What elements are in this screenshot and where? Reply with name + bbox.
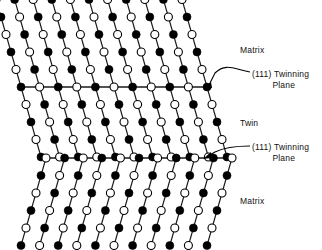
atom-open <box>147 242 155 250</box>
atom-open <box>73 242 81 250</box>
atom-filled <box>193 48 201 56</box>
atom-open <box>154 154 162 162</box>
atom-filled <box>213 118 221 126</box>
label-matrix-top: Matrix <box>240 45 264 56</box>
atom-open <box>151 31 159 39</box>
atom-filled <box>78 224 86 232</box>
atom-filled <box>37 172 45 180</box>
atom-filled <box>162 189 170 197</box>
atom-open <box>191 154 199 162</box>
atom-filled <box>91 83 99 91</box>
atom-open <box>228 154 236 162</box>
atom-filled <box>61 154 69 162</box>
atom-open <box>32 136 40 144</box>
atom-open <box>93 172 101 180</box>
atom-filled <box>176 207 184 215</box>
atom-filled <box>122 0 130 4</box>
atom-filled <box>109 13 117 21</box>
atom-open <box>144 136 152 144</box>
atom-filled <box>139 118 147 126</box>
atom-open <box>171 224 179 232</box>
atom-open <box>69 189 77 197</box>
atom-open <box>127 13 135 21</box>
atom-filled <box>186 172 194 180</box>
atom-filled <box>166 83 174 91</box>
atom-filled <box>88 136 96 144</box>
atom-filled <box>51 136 59 144</box>
atom-filled <box>172 154 180 162</box>
atom-filled <box>125 189 133 197</box>
atom-filled <box>135 154 143 162</box>
atom-open <box>42 154 50 162</box>
atom-open <box>16 13 24 21</box>
atom-open <box>157 118 165 126</box>
atom-filled <box>111 172 119 180</box>
atom-filled <box>64 118 72 126</box>
atom-filled <box>91 242 99 250</box>
atom-open <box>100 48 108 56</box>
atom-filled <box>98 154 106 162</box>
atom-filled <box>95 31 103 39</box>
twinning-diagram: Matrix Twin Matrix (111) Twinning Plane … <box>0 0 322 250</box>
atom-open <box>2 31 10 39</box>
atom-filled <box>71 13 79 21</box>
atom-filled <box>17 242 25 250</box>
atom-filled <box>21 31 29 39</box>
lattice-svg <box>0 0 322 250</box>
atom-filled <box>203 242 211 250</box>
atom-filled <box>41 101 49 109</box>
atom-open <box>22 101 30 109</box>
atom-open <box>59 101 67 109</box>
atom-filled <box>115 101 123 109</box>
label-twinning-plane-bottom: (111) Twinning Plane <box>252 142 309 163</box>
atom-open <box>184 242 192 250</box>
label-twinning-plane-bottom-line1: (111) Twinning <box>252 142 309 152</box>
atom-open <box>106 189 114 197</box>
atom-open <box>26 48 34 56</box>
atom-open <box>73 83 81 91</box>
atom-filled <box>115 224 123 232</box>
atom-open <box>110 242 118 250</box>
atom-filled <box>169 31 177 39</box>
atom-open <box>208 101 216 109</box>
atom-filled <box>213 207 221 215</box>
atom-filled <box>27 118 35 126</box>
atom-open <box>83 118 91 126</box>
atom-filled <box>199 189 207 197</box>
atom-filled <box>58 31 66 39</box>
atom-filled <box>156 48 164 56</box>
atom-open <box>36 242 44 250</box>
atom-open <box>124 66 132 74</box>
atom-filled <box>179 66 187 74</box>
atom-filled <box>159 0 167 4</box>
atom-open <box>167 172 175 180</box>
atom-open <box>49 66 57 74</box>
atom-open <box>120 207 128 215</box>
atom-filled <box>183 13 191 21</box>
atom-open <box>188 31 196 39</box>
label-twin: Twin <box>240 118 258 129</box>
atom-open <box>181 189 189 197</box>
atom-filled <box>139 207 147 215</box>
atom-filled <box>68 66 76 74</box>
atom-open <box>96 224 104 232</box>
atom-filled <box>142 66 150 74</box>
atom-filled <box>81 48 89 56</box>
atom-filled <box>101 118 109 126</box>
atom-filled <box>48 0 56 4</box>
atom-open <box>194 207 202 215</box>
atom-filled <box>0 13 5 21</box>
atom-filled <box>64 207 72 215</box>
label-matrix-bottom: Matrix <box>240 196 264 207</box>
atom-filled <box>17 83 25 91</box>
atom-open <box>66 0 74 4</box>
atom-filled <box>152 224 160 232</box>
atom-open <box>141 0 149 4</box>
atom-open <box>90 13 98 21</box>
atom-open <box>104 0 112 4</box>
leader-arrows <box>203 67 250 159</box>
atom-filled <box>7 48 15 56</box>
atom-filled <box>129 83 137 91</box>
atom-open <box>134 101 142 109</box>
atom-filled <box>31 66 39 74</box>
